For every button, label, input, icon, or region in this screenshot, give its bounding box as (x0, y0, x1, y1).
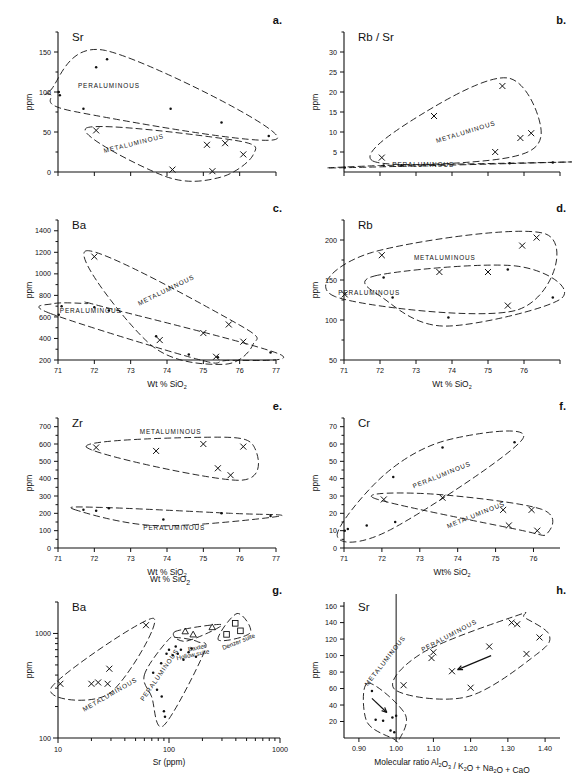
data-point-dot (371, 690, 374, 693)
x-tick-label: 73 (416, 554, 424, 563)
data-point-dot (155, 335, 158, 338)
y-axis-title-a: ppm (24, 94, 34, 110)
figure-root: 050100150Sra.ppmPERALUMINOUSMETALUMINOUS… (0, 0, 574, 784)
data-point-dot (394, 521, 397, 524)
field-outline (326, 231, 557, 313)
data-point-cross (537, 634, 543, 640)
data-point-dot (188, 353, 191, 356)
data-point-dot (163, 710, 166, 713)
chart-panel-b: 51015202530Rb / Srb.ppmMETALUMINOUSPERAL… (288, 10, 574, 200)
data-point-dot (156, 688, 159, 691)
y-tick-label: 200 (39, 509, 51, 518)
data-point-dot (391, 716, 394, 719)
series-metaluminous (381, 495, 540, 534)
data-point-cross (499, 83, 505, 89)
data-point-dot (392, 476, 395, 479)
data-point-cross (143, 622, 149, 628)
data-point-dot (393, 731, 396, 734)
data-point-cross (492, 149, 498, 155)
data-point-cross (215, 465, 221, 471)
y-tick-label: 100 (39, 526, 51, 535)
panel-letter-b: b. (556, 14, 566, 26)
y-tick-label: 60 (329, 440, 337, 449)
field-outline (85, 127, 256, 182)
y-tick-label: 1400 (35, 226, 51, 235)
field-outline (173, 624, 222, 641)
data-point-triangle (190, 631, 196, 637)
x-tick-label: 75 (199, 554, 207, 563)
y-axis-title-e: ppm (24, 475, 34, 491)
field-outline (50, 618, 154, 700)
data-point-cross (534, 235, 540, 241)
chart-panel-f: 010203040506070717273747576Crf.ppmWt% Si… (288, 396, 574, 582)
y-tick-label: 200 (39, 356, 51, 365)
panel-letter-e: e. (273, 400, 282, 412)
x-tick-label: 75 (492, 554, 500, 563)
data-point-cross (534, 528, 540, 534)
y-tick-label: 200 (325, 236, 337, 245)
panel-element-title-g: Ba (72, 601, 87, 613)
data-point-dot (57, 91, 60, 94)
y-tick-label: 140 (325, 618, 337, 627)
x-tick-label: 1.10 (426, 744, 440, 753)
x-tick-label: 72 (376, 366, 384, 375)
y-axis-title-d: ppm (310, 282, 320, 298)
data-point-cross (509, 620, 515, 626)
y-tick-label: 100 (39, 88, 51, 97)
series-metaluminous (342, 235, 540, 309)
data-point-dot (95, 66, 98, 69)
field-label: METALUMINOUS (414, 254, 476, 261)
x-tick-label: 0.90 (352, 744, 366, 753)
panel-element-title-c: Ba (72, 219, 87, 231)
data-point-cross (523, 651, 529, 657)
field-outline (363, 683, 406, 742)
y-tick-label: 25 (329, 68, 337, 77)
x-tick-label: 71 (54, 554, 62, 563)
x-tick-label: 76 (520, 366, 528, 375)
data-point-cross (204, 142, 210, 148)
data-point-dot (168, 648, 171, 651)
data-point-square (238, 628, 244, 634)
x-axis-title-g: Sr (ppm) (153, 757, 186, 767)
panel-letter-f: f. (559, 400, 566, 412)
y-tick-label: 150 (39, 48, 51, 57)
y-tick-label: 50 (329, 356, 337, 365)
field-label: PERALUMINOUS (392, 161, 454, 168)
x-tick-label: 1.20 (464, 744, 478, 753)
chart-svg-h: 204060801001201401600.901.001.101.201.30… (288, 580, 574, 784)
y-tick-label: 600 (39, 440, 51, 449)
y-tick-label: 5 (333, 148, 337, 157)
series-denzer-suite (224, 621, 243, 638)
data-point-cross (468, 685, 474, 691)
x-tick-label: 75 (484, 366, 492, 375)
series-peraluminous (344, 441, 516, 532)
series-metaluminous (93, 441, 246, 478)
data-point-cross (240, 151, 246, 157)
y-tick-label: 800 (39, 291, 51, 300)
data-point-dot (152, 672, 155, 675)
data-point-dot (164, 715, 167, 718)
y-tick-label: 100 (39, 734, 51, 743)
x-tick-label: 72 (90, 366, 98, 375)
data-point-dot (160, 695, 163, 698)
data-point-dot (552, 296, 555, 299)
y-tick-label: 400 (39, 474, 51, 483)
y-tick-label: 160 (325, 602, 337, 611)
x-axis-title-c: Wt % SiO2 (147, 379, 186, 390)
x-tick-label: 74 (163, 554, 171, 563)
data-point-cross (528, 130, 534, 136)
chart-panel-c: 20040060080010001200140071727374757677Ba… (2, 198, 290, 394)
panel-element-title-d: Rb (358, 219, 373, 231)
data-point-cross (517, 135, 523, 141)
x-tick-label: 71 (54, 366, 62, 375)
x-tick-label: 76 (529, 554, 537, 563)
panel-element-title-a: Sr (72, 31, 84, 43)
x-tick-label: 10 (54, 745, 62, 754)
data-point-dot (82, 509, 85, 512)
chart-svg-e: 010020030040050060070071727374757677Zre.… (2, 396, 290, 582)
y-tick-label: 10 (329, 526, 337, 535)
chart-svg-a: 050100150Sra.ppmPERALUMINOUSMETALUMINOUS (2, 10, 290, 200)
data-point-dot (374, 719, 377, 722)
data-point-cross (486, 644, 492, 650)
y-tick-label: 70 (329, 422, 337, 431)
